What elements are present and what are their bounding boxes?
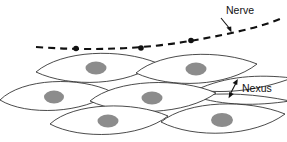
nerve-dashed-line (36, 17, 284, 49)
nerve-arrowhead-icon (226, 26, 231, 32)
nucleus (98, 115, 119, 128)
cell-mid-left (0, 82, 112, 111)
cell-bottom-left (50, 106, 168, 135)
nerve-varicosity-dot (73, 46, 79, 52)
nerve-annotation: Nerve (221, 4, 254, 33)
cell-top-left (36, 53, 157, 82)
nerve-fiber (36, 17, 284, 51)
nucleus (86, 62, 107, 75)
nucleus (142, 92, 163, 105)
nucleus (44, 91, 64, 104)
smooth-muscle-diagram: Nerve Nexus (0, 0, 287, 142)
nucleus (186, 63, 207, 76)
nucleus (211, 113, 233, 127)
cell-layer (0, 53, 287, 134)
nerve-varicosity-dot (188, 38, 194, 44)
diagram-canvas: Nerve Nexus (0, 0, 287, 142)
nerve-label: Nerve (226, 4, 254, 16)
nexus-label: Nexus (242, 82, 272, 94)
nerve-varicosity-dot (138, 45, 144, 51)
